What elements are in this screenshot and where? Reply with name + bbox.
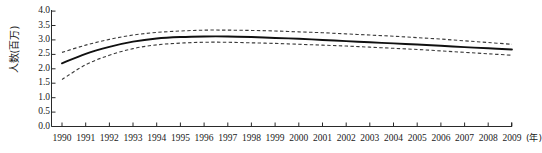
x-axis-unit-label: (年) [526, 134, 542, 143]
estimate-line [62, 36, 512, 63]
upper-bound-line [62, 30, 512, 52]
axes [52, 10, 513, 127]
y-axis-ticks [52, 11, 56, 126]
lower-bound-line [62, 42, 512, 79]
x-axis-ticks [62, 123, 512, 127]
series-group [62, 30, 512, 79]
